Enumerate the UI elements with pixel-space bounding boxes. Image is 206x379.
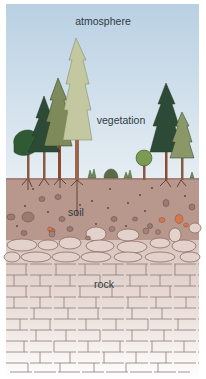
label-vegetation: vegetation: [97, 114, 145, 126]
soil-profile-diagram: atmosphere vegetation soil rock: [0, 0, 206, 379]
label-atmosphere: atmosphere: [75, 15, 130, 27]
label-rock: rock: [94, 278, 114, 290]
diagram-graphic: [0, 0, 206, 379]
label-soil: soil: [68, 206, 84, 218]
